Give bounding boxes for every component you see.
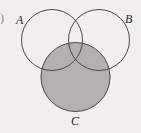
set-label-b: B xyxy=(125,13,132,25)
set-label-c: C xyxy=(71,115,79,127)
venn-diagram-figure: ) A B C xyxy=(0,0,141,133)
set-label-a: A xyxy=(16,14,23,26)
left-edge-crop-artifact: ) xyxy=(0,11,5,24)
